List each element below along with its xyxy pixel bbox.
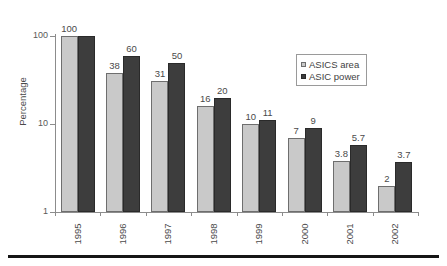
x-label-cell: 1995	[55, 218, 100, 252]
bar-asics-area[interactable]	[151, 81, 168, 212]
bar-asic-power[interactable]	[395, 162, 412, 212]
bar-value-label: 9	[310, 116, 315, 126]
x-axis-label-2000: 2000	[300, 223, 310, 244]
bar-asics-area[interactable]	[61, 36, 78, 212]
x-tick-mark	[373, 212, 374, 216]
legend-label: ASIC power	[309, 71, 360, 82]
bottom-rule	[8, 255, 439, 258]
bar-wrap: 11	[259, 120, 276, 212]
bar-wrap: 60	[123, 56, 140, 212]
bar-asic-power[interactable]	[168, 63, 185, 213]
bar-asics-area[interactable]	[106, 73, 123, 212]
legend-swatch-icon	[301, 74, 306, 79]
x-label-cell: 1998	[191, 218, 236, 252]
bar-value-label: 100	[61, 24, 77, 34]
x-label-cell: 1997	[146, 218, 191, 252]
bar-value-label: 5.7	[352, 133, 365, 143]
y-tick-label: 1	[43, 207, 48, 216]
x-label-cell: 1996	[100, 218, 145, 252]
x-tick-mark	[100, 212, 101, 216]
x-label-cell: 1999	[237, 218, 282, 252]
bar-value-label: 16	[200, 94, 211, 104]
x-tick-mark	[327, 212, 328, 216]
bar-wrap: 100	[61, 36, 78, 212]
bar-value-label: 11	[263, 108, 273, 118]
x-axis-label-1996: 1996	[118, 223, 128, 244]
x-axis-label-1997: 1997	[163, 223, 173, 244]
bar-wrap: 3.8	[333, 161, 350, 212]
bar-value-label: 60	[126, 44, 137, 54]
bar-wrap: 31	[151, 81, 168, 212]
bar-value-label: 2	[384, 174, 389, 184]
bar-asics-area[interactable]	[242, 124, 259, 212]
x-axis-label-1995: 1995	[73, 223, 83, 244]
bar-value-label: 50	[172, 51, 183, 61]
bar-asic-power[interactable]	[78, 36, 95, 212]
legend-item[interactable]: ASICS area	[301, 58, 360, 70]
bar-value-label: 7	[293, 126, 298, 136]
bar-asic-power[interactable]	[259, 120, 276, 212]
bar-asics-area[interactable]	[378, 186, 395, 212]
bar-value-label: 3.7	[397, 150, 410, 160]
legend-swatch-icon	[301, 62, 306, 67]
x-axis-labels: 19951996199719981999200020012002	[55, 218, 418, 252]
bar-asic-power[interactable]	[305, 128, 322, 212]
x-tick-mark	[237, 212, 238, 216]
bar-asics-area[interactable]	[333, 161, 350, 212]
bar-wrap	[78, 36, 95, 212]
x-axis-label-1999: 1999	[254, 223, 264, 244]
x-tick-mark	[55, 212, 56, 216]
x-tick-mark	[191, 212, 192, 216]
bar-wrap: 7	[288, 138, 305, 212]
x-axis-label-2001: 2001	[345, 223, 355, 244]
y-axis-title: Percentage	[17, 62, 28, 142]
bar-wrap: 9	[305, 128, 322, 212]
bar-value-label: 31	[155, 69, 166, 79]
chart-legend: ASICS areaASIC power	[296, 54, 367, 86]
bar-value-label: 3.8	[335, 149, 348, 159]
x-axis-label-1998: 1998	[209, 223, 219, 244]
x-tick-mark	[418, 212, 419, 216]
bar-value-label: 10	[245, 112, 256, 122]
bar-wrap: 16	[197, 106, 214, 212]
y-tick-label: 10	[38, 119, 48, 128]
bar-wrap: 10	[242, 124, 259, 212]
x-axis-label-2002: 2002	[390, 223, 400, 244]
chart-figure: Percentage 100101 1003860315016201011793…	[0, 0, 447, 266]
bar-wrap: 20	[214, 98, 231, 212]
bar-group: 23.7	[373, 36, 418, 212]
legend-label: ASICS area	[309, 59, 359, 70]
bar-group: 3860	[100, 36, 145, 212]
x-label-cell: 2001	[327, 218, 372, 252]
bar-asics-area[interactable]	[288, 138, 305, 212]
bar-group: 3150	[146, 36, 191, 212]
bar-asic-power[interactable]	[214, 98, 231, 212]
bar-value-label: 38	[109, 61, 120, 71]
bar-wrap: 3.7	[395, 162, 412, 212]
bar-wrap: 50	[168, 63, 185, 213]
bar-asic-power[interactable]	[350, 145, 367, 212]
bar-group: 1011	[237, 36, 282, 212]
bar-wrap: 5.7	[350, 145, 367, 212]
y-tick-label: 100	[33, 31, 48, 40]
bar-wrap: 2	[378, 186, 395, 212]
bar-asic-power[interactable]	[123, 56, 140, 212]
x-label-cell: 2000	[282, 218, 327, 252]
bar-wrap: 38	[106, 73, 123, 212]
legend-item[interactable]: ASIC power	[301, 70, 360, 82]
x-tick-mark	[146, 212, 147, 216]
bar-value-label: 20	[217, 86, 228, 96]
bar-group: 1620	[191, 36, 236, 212]
bar-group: 100	[55, 36, 100, 212]
bar-asics-area[interactable]	[197, 106, 214, 212]
x-tick-mark	[282, 212, 283, 216]
x-label-cell: 2002	[373, 218, 418, 252]
